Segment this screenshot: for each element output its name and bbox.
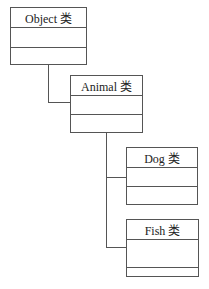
class-box-dog: Dog 类 (126, 147, 198, 205)
connector-animal-dog-horizontal (106, 177, 126, 178)
class-name-animal: Animal 类 (71, 76, 142, 96)
connector-object-animal-horizontal (48, 102, 70, 103)
connector-animal-trunk-vertical (106, 133, 107, 248)
methods-section-fish (127, 268, 198, 276)
class-name-fish: Fish 类 (127, 220, 198, 240)
methods-section-animal (71, 115, 142, 132)
attributes-section-object (11, 28, 86, 48)
class-name-dog: Dog 类 (127, 148, 197, 168)
attributes-section-dog (127, 168, 197, 187)
class-box-object: Object 类 (10, 7, 87, 65)
attributes-section-fish (127, 240, 198, 268)
connector-object-animal-vertical (48, 65, 49, 103)
class-name-object: Object 类 (11, 8, 86, 28)
class-box-fish: Fish 类 (126, 219, 199, 277)
attributes-section-animal (71, 96, 142, 115)
methods-section-object (11, 48, 86, 64)
connector-animal-fish-horizontal (106, 247, 126, 248)
class-box-animal: Animal 类 (70, 75, 143, 133)
methods-section-dog (127, 187, 197, 204)
